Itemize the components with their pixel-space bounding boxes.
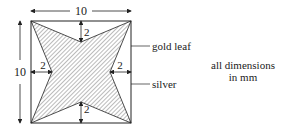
left-dimension-label: 10	[14, 65, 26, 79]
left-inset-label: 2	[40, 59, 46, 71]
units-note: all dimensions in mm	[208, 59, 278, 83]
top-dimension: 10	[31, 4, 131, 18]
right-inset-label: 2	[117, 59, 123, 71]
silver-callout: silver	[152, 78, 177, 90]
top-inset-label: 2	[84, 26, 90, 38]
bottom-inset-label: 2	[84, 103, 90, 115]
units-note-line2: in mm	[208, 71, 278, 83]
left-dimension: 10	[14, 21, 26, 123]
top-dimension-label: 10	[75, 4, 87, 18]
units-note-line1: all dimensions	[208, 59, 278, 71]
gold-leaf-callout: gold leaf	[152, 40, 191, 52]
